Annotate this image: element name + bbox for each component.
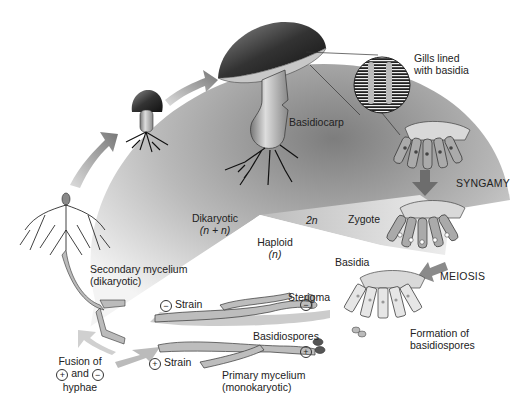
plus-strain-label: + Strain	[149, 356, 191, 370]
basidia-label: Basidia	[335, 256, 369, 268]
plus-sign-icon: +	[149, 358, 161, 370]
fusion-line1: Fusion of	[50, 355, 110, 367]
haploid-label: Haploid (n)	[245, 236, 305, 260]
dikaryotic-ploidy: (n + n)	[180, 224, 250, 236]
syngamy-label: SYNGAMY	[456, 177, 510, 189]
diploid-label: 2n	[306, 214, 318, 226]
secondary-mycelium-type: (dikaryotic)	[90, 275, 187, 287]
zygote-label: Zygote	[348, 213, 380, 225]
plus-strain-text: Strain	[164, 356, 191, 368]
gills-label-line2: with basidia	[414, 64, 469, 76]
gills-label: Gills lined with basidia	[414, 52, 469, 76]
plus-spore-sign: +	[300, 344, 312, 358]
minus-sign-icon: −	[300, 299, 312, 311]
fusion-line3: hyphae	[50, 381, 110, 393]
secondary-mycelium-text: Secondary mycelium	[90, 263, 187, 275]
primary-mycelium-text: Primary mycelium	[222, 369, 305, 381]
dikaryotic-label: Dikaryotic (n + n)	[180, 212, 250, 236]
basidiospores-label: Basidiospores	[253, 330, 319, 342]
basidiocarp-label: Basidiocarp	[289, 116, 344, 128]
meiosis-label: MEIOSIS	[440, 270, 485, 282]
haploid-ploidy: (n)	[245, 248, 305, 260]
fusion-and: and	[71, 367, 89, 379]
primary-mycelium-label: Primary mycelium (monokaryotic)	[222, 369, 305, 393]
haploid-text: Haploid	[245, 236, 305, 248]
formation-line1: Formation of	[410, 327, 475, 339]
formation-line2: basidiospores	[410, 339, 475, 351]
plus-sign-icon: +	[300, 346, 312, 358]
minus-strain-label: − Strain	[160, 298, 202, 312]
fungal-life-cycle-diagram: Gills lined with basidia Basidiocarp SYN…	[0, 0, 526, 406]
plus-sign-icon: +	[56, 369, 68, 381]
dikaryotic-text: Dikaryotic	[180, 212, 250, 224]
gills-label-line1: Gills lined	[414, 52, 469, 64]
minus-sign-icon: −	[160, 300, 172, 312]
minus-strain-text: Strain	[175, 298, 202, 310]
minus-sign-icon: −	[92, 369, 104, 381]
secondary-mycelium-label: Secondary mycelium (dikaryotic)	[90, 263, 187, 287]
fusion-label: Fusion of + and − hyphae	[50, 355, 110, 393]
formation-label: Formation of basidiospores	[410, 327, 475, 351]
fusion-line2: + and −	[50, 367, 110, 381]
primary-mycelium-type: (monokaryotic)	[222, 381, 305, 393]
minus-spore-sign: −	[300, 297, 312, 311]
